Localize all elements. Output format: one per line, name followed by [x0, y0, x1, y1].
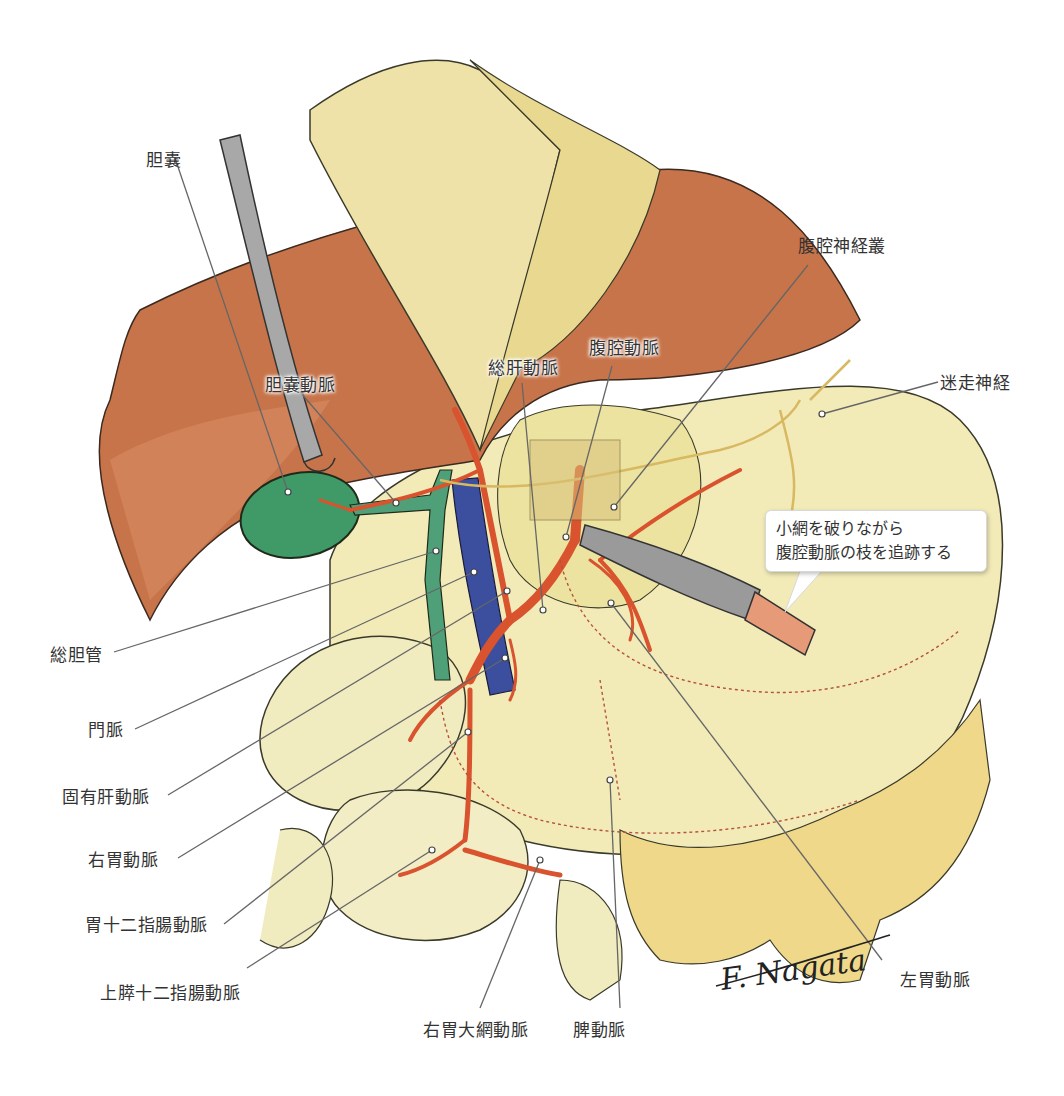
- procedure-callout: 小網を破りながら 腹腔動脈の枝を追跡する: [765, 510, 987, 572]
- callout-line-2: 腹腔動脈の枝を追跡する: [776, 541, 976, 565]
- label-gastroduodenal-artery: 胃十二指腸動脈: [85, 915, 208, 935]
- label-left-gastric-artery: 左胃動脈: [900, 970, 970, 990]
- label-vagus-nerve: 迷走神経: [940, 373, 1010, 393]
- celiac-plexus-shape: [530, 440, 620, 520]
- anatomical-figure: 胆嚢 胆嚢動脈 総肝動脈 腹腔動脈 腹腔神経叢 迷走神経 総胆管 門脈 固有肝動…: [0, 0, 1064, 1096]
- label-common-bile-duct: 総胆管: [50, 645, 103, 665]
- label-right-gastric-artery: 右胃動脈: [88, 850, 158, 870]
- label-common-hepatic-artery: 総肝動脈: [485, 357, 561, 379]
- label-right-gastroepiploic-artery: 右胃大網動脈: [423, 1020, 528, 1040]
- label-proper-hepatic-artery: 固有肝動脈: [62, 787, 150, 807]
- label-portal-vein: 門脈: [88, 720, 123, 740]
- label-splenic-artery: 脾動脈: [573, 1020, 626, 1040]
- label-gallbladder: 胆嚢: [146, 150, 181, 170]
- label-celiac-artery: 腹腔動脈: [586, 337, 662, 359]
- callout-line-1: 小網を破りながら: [776, 517, 976, 541]
- label-cystic-artery: 胆嚢動脈: [262, 374, 338, 396]
- label-celiac-plexus: 腹腔神経叢: [798, 236, 886, 256]
- label-superior-pancreaticoduodenal-artery: 上膵十二指腸動脈: [100, 983, 240, 1003]
